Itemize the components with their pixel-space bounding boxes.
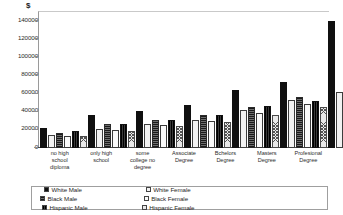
y-axis-tick-label: 20000 (2, 125, 38, 131)
bar (176, 126, 183, 148)
bar (64, 136, 71, 148)
bar (320, 107, 327, 148)
bar (248, 107, 255, 148)
bar-group (231, 11, 279, 148)
legend-swatch-icon (146, 187, 151, 192)
bar-group (183, 11, 231, 148)
bar (152, 120, 159, 148)
y-axis-tick: 140000 (0, 17, 38, 24)
legend-item[interactable]: Black Female (136, 194, 240, 203)
bar (280, 82, 287, 148)
bar (56, 133, 63, 148)
x-axis-label: MastersDegree (246, 150, 287, 182)
bar (96, 129, 103, 148)
bar (192, 120, 199, 148)
y-axis-tick: 120000 (0, 35, 38, 42)
bar (40, 128, 47, 148)
y-axis-tick-label: 120000 (2, 35, 38, 41)
y-axis-tick: 80000 (0, 71, 38, 78)
bar (184, 105, 191, 148)
y-axis-tick-label: 60000 (2, 89, 38, 95)
legend-label: Hispanic Female (149, 204, 194, 211)
y-axis-tick-label: 140000 (2, 17, 38, 23)
bar (256, 113, 263, 148)
y-axis-tick-label: 0 (2, 144, 38, 150)
legend-label: Black Male (48, 195, 78, 202)
y-axis-tick: 0 (0, 144, 38, 151)
bar (104, 124, 111, 148)
chart-legend: White MaleWhite FemaleBlack MaleBlack Fe… (31, 186, 328, 210)
y-axis-tick-label: 40000 (2, 107, 38, 113)
legend-item[interactable]: Black Male (36, 194, 136, 203)
bar (224, 122, 231, 148)
x-axis-label: only highschool (80, 150, 121, 182)
bar (208, 121, 215, 148)
x-axis-label: no highschooldiploma (39, 150, 80, 182)
x-axis-labels: no highschooldiplomaonly highschoolsomec… (39, 150, 329, 182)
bar-group (279, 11, 327, 148)
bar (72, 131, 79, 148)
bar (288, 100, 295, 148)
y-axis-tick-mark (34, 111, 38, 112)
legend-item[interactable]: White Female (140, 185, 242, 194)
bar-group (135, 11, 183, 148)
bar-group (39, 11, 87, 148)
bar (200, 115, 207, 148)
legend-swatch-icon (40, 196, 45, 201)
legend-swatch-icon (142, 205, 147, 210)
bar (264, 106, 271, 148)
legend-item[interactable]: Hispanic Male (36, 203, 138, 212)
bar-group (327, 11, 343, 148)
bar (304, 104, 311, 148)
y-axis-tick-label: 80000 (2, 71, 38, 77)
bar (168, 120, 175, 148)
legend-item[interactable]: Hispanic Female (138, 203, 238, 212)
bar (112, 130, 119, 148)
y-axis-tick-mark (34, 56, 38, 57)
bar-groups (39, 11, 329, 148)
y-axis-tick-mark (34, 93, 38, 94)
legend-label: Black Female (151, 195, 188, 202)
y-axis-tick-mark (34, 129, 38, 130)
legend-swatch-icon (42, 205, 47, 210)
y-axis-tick: 40000 (0, 107, 38, 114)
bar (136, 111, 143, 148)
legend-item[interactable]: White Male (36, 185, 140, 194)
bar (232, 90, 239, 148)
bar (80, 136, 87, 148)
y-axis-tick: 20000 (0, 125, 38, 132)
bar-group (87, 11, 135, 148)
y-axis-tick-mark (34, 147, 38, 148)
legend-label: Hispanic Male (50, 204, 88, 211)
y-axis-tick: 60000 (0, 89, 38, 96)
bar (328, 21, 335, 148)
x-axis-label: BchelorsDegree (205, 150, 246, 182)
bar (312, 101, 319, 148)
bar (272, 115, 279, 148)
x-axis-label: somecollege nodegree (122, 150, 163, 182)
bar (88, 115, 95, 148)
legend-label: White Female (153, 186, 191, 193)
bar (144, 124, 151, 148)
bar (216, 115, 223, 148)
x-axis-label: AssociateDegree (163, 150, 204, 182)
x-axis-label: ProfesionalDegree (288, 150, 329, 182)
y-axis-tick-mark (34, 74, 38, 75)
bar (336, 92, 343, 148)
bar (128, 131, 135, 148)
bar (120, 124, 127, 148)
legend-swatch-icon (44, 187, 49, 192)
bar (240, 110, 247, 148)
bar (160, 125, 167, 148)
y-axis-tick-mark (34, 20, 38, 21)
legend-swatch-icon (144, 196, 149, 201)
y-axis-tick-label: 100000 (2, 53, 38, 59)
bar (48, 135, 55, 148)
y-axis-unit-label: $ (26, 1, 30, 10)
y-axis-tick: 100000 (0, 53, 38, 60)
y-axis-tick-mark (34, 38, 38, 39)
legend-label: White Male (52, 186, 82, 193)
bar (296, 97, 303, 148)
